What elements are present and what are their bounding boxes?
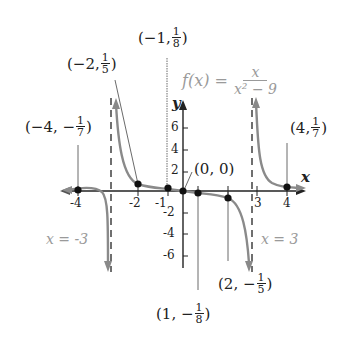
point-2 xyxy=(224,194,231,201)
y-tick-neg4: -4 xyxy=(163,226,175,240)
point-label-neg1: (−1, 18) xyxy=(138,26,188,49)
point-label-text: (2, − xyxy=(218,275,256,293)
y-tick-4: 4 xyxy=(171,142,179,156)
point-label-fraction: 17 xyxy=(76,115,85,138)
point-neg1 xyxy=(164,184,171,191)
point-label-origin: (0, 0) xyxy=(194,160,234,178)
asymptote-label-3: x = 3 xyxy=(261,231,298,247)
point-label-text: (1, − xyxy=(156,305,194,323)
asymptote-label-neg3: x = -3 xyxy=(46,231,88,247)
point-label-fraction: 15 xyxy=(101,52,110,75)
y-tick-6: 6 xyxy=(171,120,179,134)
point-4 xyxy=(283,183,290,190)
point-label-2: (2, − 15) xyxy=(218,272,272,295)
function-fraction: x x² − 9 xyxy=(234,64,277,97)
x-tick-neg4: -4 xyxy=(70,196,82,210)
point-label-text: (−4, − xyxy=(25,118,75,136)
y-tick-2: 2 xyxy=(171,163,179,177)
function-denominator: x² − 9 xyxy=(234,81,277,97)
arrow-middle-up-icon xyxy=(112,98,120,109)
x-tick-3: 3 xyxy=(254,196,262,210)
point-label-fraction: 18 xyxy=(172,26,181,49)
function-numerator: x xyxy=(243,64,267,81)
y-axis-label: y xyxy=(172,94,181,112)
point-label-fraction: 15 xyxy=(257,272,266,295)
x-tick-4: 4 xyxy=(283,196,291,210)
x-tick-neg2: -2 xyxy=(129,196,141,210)
point-label-4: (4, 17) xyxy=(290,116,327,139)
point-label-neg2: (−2, 15) xyxy=(67,52,117,75)
x-axis-label: x xyxy=(301,168,310,186)
point-label-text: (−2, xyxy=(67,55,100,73)
point-label-text: (−1, xyxy=(138,29,171,47)
point-origin xyxy=(179,187,186,194)
y-tick-neg6: -6 xyxy=(163,248,175,262)
point-label-neg4: (−4, − 17) xyxy=(25,115,92,138)
point-label-text: (0, 0) xyxy=(194,160,234,178)
point-label-1: (1, − 18) xyxy=(156,302,210,325)
function-label-prefix: f(x) = xyxy=(182,71,228,90)
point-label-fraction: 18 xyxy=(195,302,204,325)
point-label-fraction: 17 xyxy=(311,116,320,139)
function-label: f(x) = x x² − 9 xyxy=(182,64,278,97)
arrow-right-up-icon xyxy=(252,97,260,108)
x-tick-neg1: -1 xyxy=(155,196,167,210)
point-label-text: (4, xyxy=(290,119,310,137)
point-neg4 xyxy=(74,186,81,193)
point-1 xyxy=(194,189,201,196)
point-neg2 xyxy=(134,180,141,187)
